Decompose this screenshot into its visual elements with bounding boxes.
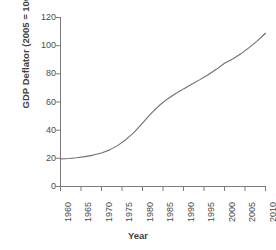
x-tick-label: 1960 [64, 202, 73, 222]
chart-figure: GDP Deflator (2005 = 100) Year 120 100 8… [0, 0, 276, 250]
x-tick-label: 1985 [166, 202, 175, 222]
x-tick-label: 2010 [269, 202, 276, 222]
x-tick-label-group: 1960 1965 1970 1975 1980 1985 1990 1995 … [0, 0, 276, 250]
x-tick-label: 1965 [84, 202, 93, 222]
x-tick-label: 1975 [125, 202, 134, 222]
x-tick-label: 1970 [105, 202, 114, 222]
x-tick-label: 1980 [146, 202, 155, 222]
x-tick-label: 2005 [248, 202, 257, 222]
x-tick-label: 1990 [187, 202, 196, 222]
x-tick-label: 1995 [207, 202, 216, 222]
x-tick-label: 2000 [228, 202, 237, 222]
